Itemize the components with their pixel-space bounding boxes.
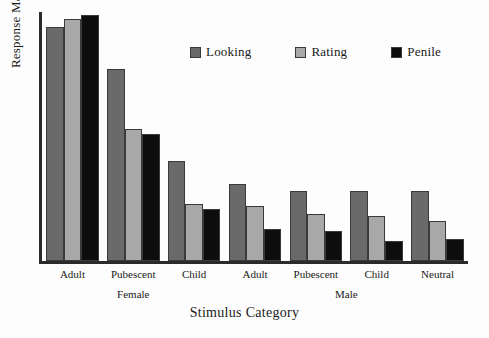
bar-penile-0 (81, 15, 99, 262)
x-tick-label-4: Pubescent (285, 268, 346, 280)
bar-penile-1 (142, 134, 160, 261)
legend-label-penile: Penile (407, 44, 441, 60)
x-group-label-male: Male (225, 288, 468, 300)
bar-rating-1 (125, 129, 143, 261)
x-tick-label-5: Child (346, 268, 407, 280)
legend-item-rating[interactable]: Rating (295, 44, 347, 60)
legend-swatch-penile (391, 47, 402, 58)
bar-rating-4 (307, 214, 325, 261)
bar-rating-6 (429, 221, 447, 261)
bar-chart-figure: Response Magnitude LookingRatingPenile A… (0, 0, 489, 338)
y-axis-title: Response Magnitude (8, 0, 26, 68)
bar-looking-0 (46, 27, 64, 261)
bar-penile-3 (264, 229, 282, 261)
legend-label-rating: Rating (311, 44, 347, 60)
legend-item-penile[interactable]: Penile (391, 44, 441, 60)
chart-legend: LookingRatingPenile (190, 44, 441, 60)
x-tick-label-1: Pubescent (103, 268, 164, 280)
bar-looking-5 (350, 191, 368, 261)
legend-item-looking[interactable]: Looking (190, 44, 251, 60)
bar-looking-3 (229, 184, 247, 261)
x-group-label-female: Female (42, 288, 225, 300)
legend-label-looking: Looking (206, 44, 251, 60)
bar-rating-3 (246, 206, 264, 261)
bar-penile-4 (325, 231, 343, 261)
bar-looking-2 (168, 161, 186, 261)
bar-penile-6 (446, 239, 464, 261)
bar-group (103, 12, 164, 261)
x-tick-label-2: Child (164, 268, 225, 280)
bar-penile-5 (385, 241, 403, 261)
bar-penile-2 (203, 209, 221, 261)
x-axis-line (39, 261, 468, 264)
x-tick-label-6: Neutral (407, 268, 468, 280)
bar-rating-5 (368, 216, 386, 261)
bar-rating-2 (185, 204, 203, 261)
legend-swatch-rating (295, 47, 306, 58)
x-axis-title: Stimulus Category (0, 305, 489, 321)
x-tick-label-0: Adult (42, 268, 103, 280)
bar-looking-6 (411, 191, 429, 261)
legend-swatch-looking (190, 47, 201, 58)
bar-looking-1 (107, 69, 125, 261)
x-tick-label-3: Adult (225, 268, 286, 280)
bar-group (42, 12, 103, 261)
bar-rating-0 (64, 19, 82, 261)
bar-looking-4 (290, 191, 308, 261)
